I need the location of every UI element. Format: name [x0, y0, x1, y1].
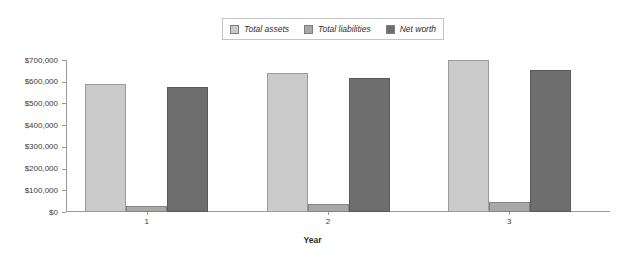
- x-axis-title: Year: [0, 236, 625, 245]
- legend-swatch-icon: [304, 25, 313, 34]
- y-axis-line: [66, 60, 67, 212]
- legend-item-label: Total assets: [244, 25, 289, 34]
- bar[interactable]: [448, 60, 489, 212]
- bar-group: [85, 60, 208, 212]
- bar[interactable]: [267, 73, 308, 212]
- legend-item[interactable]: Total liabilities: [304, 25, 371, 34]
- legend-swatch-icon: [386, 25, 395, 34]
- bar-chart: Total assetsTotal liabilitiesNet worth $…: [0, 0, 625, 257]
- x-axis-tick: [509, 212, 510, 215]
- bar[interactable]: [167, 87, 208, 213]
- x-axis-tick-label: 2: [326, 218, 330, 226]
- y-axis-tick: $100,000: [62, 190, 66, 191]
- y-axis-tick-label: $400,000: [25, 122, 58, 130]
- y-axis-tick-label: $500,000: [25, 100, 58, 108]
- legend-item[interactable]: Total assets: [230, 25, 289, 34]
- y-axis-tick: $200,000: [62, 169, 66, 170]
- y-axis-tick: $400,000: [62, 125, 66, 126]
- y-axis-tick: $700,000: [62, 60, 66, 61]
- bar[interactable]: [489, 202, 530, 212]
- bar[interactable]: [308, 204, 349, 212]
- y-axis-tick-label: $0: [49, 209, 58, 217]
- y-axis-tick: $600,000: [62, 82, 66, 83]
- y-axis-tick-label: $100,000: [25, 187, 58, 195]
- y-axis-tick-label: $700,000: [25, 57, 58, 65]
- bar[interactable]: [349, 78, 390, 212]
- y-axis-tick-label: $200,000: [25, 165, 58, 173]
- bar[interactable]: [85, 84, 126, 212]
- legend-item-label: Net worth: [400, 25, 436, 34]
- plot-area: $0$100,000$200,000$300,000$400,000$500,0…: [66, 60, 610, 212]
- bar-group: [448, 60, 571, 212]
- chart-legend: Total assetsTotal liabilitiesNet worth: [222, 18, 444, 40]
- x-axis-tick: [147, 212, 148, 215]
- y-axis-tick-label: $300,000: [25, 143, 58, 151]
- bar[interactable]: [530, 70, 571, 212]
- x-axis-tick: [328, 212, 329, 215]
- y-axis-tick: $500,000: [62, 103, 66, 104]
- legend-item-label: Total liabilities: [318, 25, 371, 34]
- x-axis-tick-label: 3: [507, 218, 511, 226]
- bar-group: [267, 60, 390, 212]
- y-axis-tick-label: $600,000: [25, 78, 58, 86]
- legend-swatch-icon: [230, 25, 239, 34]
- x-axis-tick-label: 1: [144, 218, 148, 226]
- y-axis-tick: $300,000: [62, 147, 66, 148]
- y-axis-tick: $0: [62, 212, 66, 213]
- legend-item[interactable]: Net worth: [386, 25, 436, 34]
